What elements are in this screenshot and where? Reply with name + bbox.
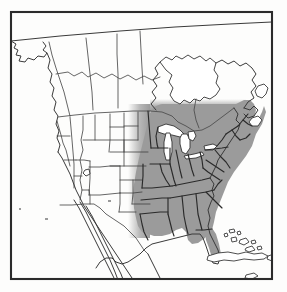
north-america-map [0, 0, 287, 292]
scan-specks [19, 200, 111, 220]
caribbean-islands [207, 229, 277, 279]
range-map-figure: North America distribution map Outline m… [0, 0, 287, 292]
